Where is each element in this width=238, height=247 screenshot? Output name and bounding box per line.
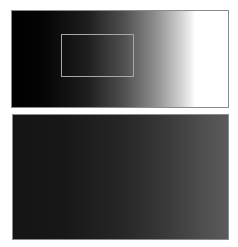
top-gradient-panel: [11, 10, 229, 108]
bottom-gradient-panel: [12, 114, 229, 240]
region-of-interest-box: [61, 34, 134, 77]
